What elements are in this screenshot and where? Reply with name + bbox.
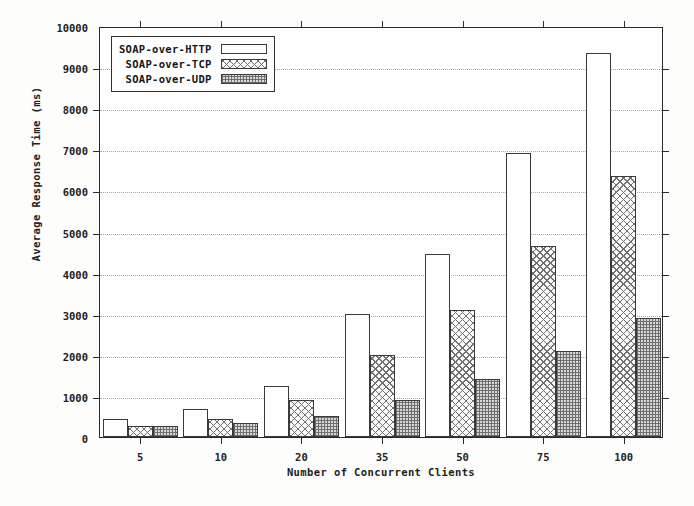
chart-legend: SOAP-over-HTTP SOAP-over-TCP SOAP-over-U… <box>111 36 275 92</box>
gridline <box>100 316 662 317</box>
x-axis-tick <box>463 437 464 444</box>
bar-soap-over-tcp-75 <box>531 246 556 437</box>
bar-soap-over-http-100 <box>586 53 611 437</box>
x-axis-tick <box>382 437 383 444</box>
y-axis-tick-label: 3000 <box>63 310 88 322</box>
legend-item: SOAP-over-HTTP <box>119 41 267 56</box>
y-axis-tick-label: 9000 <box>63 63 88 75</box>
x-axis-tick <box>221 21 222 28</box>
bar-soap-over-http-20 <box>264 386 289 437</box>
bar-soap-over-udp-20 <box>314 416 339 437</box>
y-axis-tick-label: 5000 <box>63 228 88 240</box>
y-axis-title: Average Response Time (ms) <box>30 54 42 294</box>
legend-swatch-http <box>221 44 267 54</box>
y-axis-tick-label: 2000 <box>63 351 88 363</box>
x-axis-tick <box>624 437 625 444</box>
gridline <box>100 275 662 276</box>
bar-soap-over-tcp-5 <box>128 426 153 438</box>
y-axis-tick-label: 6000 <box>63 186 88 198</box>
y-axis-tick <box>93 234 100 235</box>
legend-label: SOAP-over-HTTP <box>119 43 212 55</box>
bar-soap-over-http-5 <box>103 419 128 437</box>
x-axis-tick-label: 100 <box>614 451 633 463</box>
y-axis-tick <box>662 151 669 152</box>
y-axis-tick-label: 1000 <box>63 392 88 404</box>
x-axis-tick-label: 5 <box>137 451 143 463</box>
x-axis-tick-label: 20 <box>295 451 308 463</box>
x-axis-tick-label: 10 <box>215 451 228 463</box>
x-axis-tick <box>221 437 222 444</box>
gridline <box>100 192 662 193</box>
x-axis-title: Number of Concurrent Clients <box>99 466 663 478</box>
legend-label: SOAP-over-TCP <box>126 58 212 70</box>
x-axis-tick <box>624 21 625 28</box>
legend-item: SOAP-over-TCP <box>119 56 267 71</box>
y-axis-tick <box>93 69 100 70</box>
y-axis-tick <box>662 234 669 235</box>
bar-soap-over-http-10 <box>183 409 208 437</box>
y-axis-tick-label: 7000 <box>63 145 88 157</box>
gridline <box>100 110 662 111</box>
legend-label: SOAP-over-UDP <box>126 73 212 85</box>
bar-soap-over-tcp-100 <box>611 176 636 437</box>
bar-soap-over-udp-35 <box>395 400 420 437</box>
x-axis-tick <box>382 21 383 28</box>
bar-soap-over-tcp-50 <box>450 310 475 437</box>
y-axis-tick <box>93 110 100 111</box>
bar-soap-over-udp-10 <box>233 423 258 437</box>
y-axis-tick <box>662 69 669 70</box>
x-axis-tick <box>463 21 464 28</box>
chart-figure: Average Response Time (ms) 0100020003000… <box>0 0 694 506</box>
bar-soap-over-http-75 <box>506 153 531 437</box>
x-axis-tick <box>301 21 302 28</box>
y-axis-tick-label: 4000 <box>63 269 88 281</box>
y-axis-tick <box>662 316 669 317</box>
x-axis-tick <box>543 437 544 444</box>
y-axis-tick <box>662 357 669 358</box>
bar-soap-over-http-50 <box>425 254 450 437</box>
x-axis-tick <box>140 21 141 28</box>
x-axis-tick-label: 35 <box>376 451 389 463</box>
legend-swatch-tcp <box>221 59 267 69</box>
bar-soap-over-udp-100 <box>636 318 661 437</box>
gridline <box>100 151 662 152</box>
y-axis-tick <box>93 275 100 276</box>
gridline <box>100 234 662 235</box>
y-axis-tick <box>662 275 669 276</box>
plot-area: 0100020003000400050006000700080009000100… <box>99 27 663 438</box>
bar-soap-over-tcp-35 <box>370 355 395 437</box>
y-axis-tick <box>662 110 669 111</box>
bar-soap-over-udp-75 <box>556 351 581 437</box>
x-axis-tick-label: 50 <box>456 451 469 463</box>
y-axis-tick <box>93 192 100 193</box>
y-axis-tick <box>93 357 100 358</box>
x-axis-tick <box>140 437 141 444</box>
bar-soap-over-udp-5 <box>153 426 178 437</box>
legend-swatch-udp <box>221 74 267 84</box>
y-axis-tick-label: 0 <box>82 433 88 445</box>
bar-soap-over-tcp-10 <box>208 419 233 437</box>
bar-soap-over-udp-50 <box>475 379 500 437</box>
y-axis-tick <box>662 398 669 399</box>
y-axis-tick <box>662 192 669 193</box>
x-axis-tick <box>543 21 544 28</box>
x-axis-tick <box>301 437 302 444</box>
y-axis-tick <box>93 316 100 317</box>
y-axis-tick-label: 8000 <box>63 104 88 116</box>
x-axis-tick-label: 75 <box>537 451 550 463</box>
legend-item: SOAP-over-UDP <box>119 71 267 86</box>
bar-soap-over-http-35 <box>345 314 370 437</box>
y-axis-tick-label: 10000 <box>56 22 88 34</box>
y-axis-tick <box>93 151 100 152</box>
bar-soap-over-tcp-20 <box>289 400 314 437</box>
y-axis-tick <box>93 398 100 399</box>
